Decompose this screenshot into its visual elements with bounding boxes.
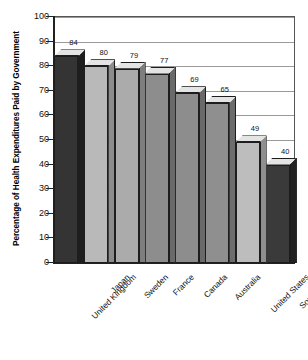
bar-front-face xyxy=(236,142,260,263)
bar-value-label: 84 xyxy=(58,38,89,47)
bar-side-face xyxy=(169,67,176,263)
y-axis-title: Percentage of Health Expenditures Paid b… xyxy=(12,19,21,259)
x-tick-label: Sweden xyxy=(141,272,169,300)
bar-value-label: 65 xyxy=(209,85,240,94)
x-tick-label: France xyxy=(170,272,195,297)
y-tick-mark xyxy=(46,16,53,17)
y-tick-mark xyxy=(46,164,53,165)
bar xyxy=(145,67,169,263)
bar-value-label: 77 xyxy=(149,56,180,65)
x-tick-label: United Kingdom xyxy=(89,272,138,321)
bar-front-face xyxy=(175,93,199,263)
bar xyxy=(236,135,260,263)
bar-front-face xyxy=(115,69,139,263)
bar-value-label: 69 xyxy=(179,75,210,84)
bars-layer: 4049656977798084 xyxy=(53,16,295,263)
y-tick-mark xyxy=(46,65,53,66)
bar xyxy=(84,59,108,263)
y-tick-mark xyxy=(46,90,53,91)
bar-value-label: 79 xyxy=(119,51,150,60)
bar-value-label: 80 xyxy=(88,48,119,57)
bar-front-face xyxy=(54,56,78,263)
bar-front-face xyxy=(84,66,108,263)
y-tick-mark xyxy=(46,139,53,140)
bar-side-face xyxy=(260,135,267,263)
y-tick-mark xyxy=(46,213,53,214)
bar-side-face xyxy=(139,62,146,263)
x-tick-label: Australia xyxy=(233,272,263,302)
bar xyxy=(175,86,199,263)
y-tick-mark xyxy=(46,41,53,42)
bar xyxy=(115,62,139,263)
y-tick-mark xyxy=(46,237,53,238)
x-axis-labels: South AfricaUnited StatesAustraliaCanada… xyxy=(53,262,295,360)
y-tick-mark xyxy=(46,188,53,189)
bar-chart: Percentage of Health Expenditures Paid b… xyxy=(0,0,308,360)
bar-front-face xyxy=(205,103,229,263)
bar xyxy=(54,49,78,263)
bar-value-label: 49 xyxy=(240,124,271,133)
bar-side-face xyxy=(108,59,115,263)
bar-side-face xyxy=(290,158,297,263)
bar-side-face xyxy=(199,86,206,263)
bar xyxy=(205,96,229,263)
x-tick-label: Canada xyxy=(202,272,230,300)
bar xyxy=(266,158,290,263)
y-axis-tick-labels: 1009080706050403020100 xyxy=(22,0,49,360)
bar-front-face xyxy=(145,74,169,263)
y-tick-mark xyxy=(46,262,53,263)
bar-front-face xyxy=(266,165,290,263)
bar-side-face xyxy=(78,49,85,263)
bar-value-label: 40 xyxy=(270,147,301,156)
bar-side-face xyxy=(229,96,236,263)
y-tick-mark xyxy=(46,114,53,115)
